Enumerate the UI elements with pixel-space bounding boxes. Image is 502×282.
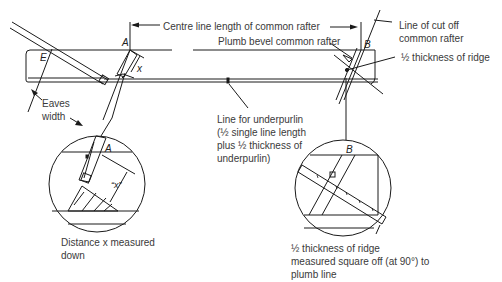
half-ridge-label: ½ thickness of ridge — [401, 51, 490, 64]
detail-x-label: “x” — [111, 180, 122, 190]
rafter-setting-out-diagram: A B E x A “x” B Centre line length of co… — [0, 0, 502, 282]
x-label: x — [137, 63, 142, 74]
plumb-bevel-label: Plumb bevel common rafter — [218, 35, 340, 48]
half-ridge-line — [334, 55, 395, 94]
eaves-width-label: Eaves width — [42, 97, 70, 123]
centre-line-label: Centre line length of common rafter — [163, 20, 320, 33]
half-ridge-detail-label: ½ thickness of ridge measured square off… — [291, 242, 429, 281]
detail-a-point-label: A — [105, 143, 112, 154]
cut-off-line — [344, 10, 392, 100]
timber-board — [26, 50, 378, 84]
detail-circle-b — [295, 140, 391, 236]
point-b-label: B — [364, 39, 371, 50]
framing-square — [10, 22, 108, 85]
plumb-line-a — [103, 50, 137, 120]
detail-a-leader — [101, 118, 112, 136]
distance-x-label: Distance x measured down — [61, 236, 155, 262]
cut-off-line-label: Line of cut off common rafter — [399, 19, 463, 45]
point-e-label: E — [40, 52, 47, 63]
detail-circle-a — [49, 136, 145, 232]
point-a-label: A — [122, 37, 129, 48]
detail-b-point-label: B — [346, 144, 353, 155]
underpurlin-label: Line for underpurlin (½ single line leng… — [217, 113, 306, 165]
